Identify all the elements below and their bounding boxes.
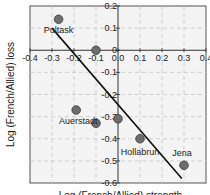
- scatter-chart: -0.4-0.3-0.2-0.10.00.10.20.30.4 0.20.10-…: [0, 0, 210, 195]
- y-tick-label: -0.6: [101, 178, 117, 188]
- point-label: Jena: [172, 148, 192, 158]
- y-tick-label: 0.2: [104, 1, 117, 11]
- y-tick-label: 0: [112, 45, 117, 55]
- data-point: [92, 46, 101, 55]
- data-point: [136, 134, 145, 143]
- y-axis-label: Log (French/Allied) loss: [5, 42, 16, 147]
- data-point: [72, 106, 81, 115]
- y-tick-label: -0.4: [101, 134, 117, 144]
- point-label: Pultask: [44, 25, 74, 35]
- x-tick-label: 0.3: [178, 53, 191, 63]
- x-tick-label: 0.2: [156, 53, 169, 63]
- data-point: [180, 161, 189, 170]
- data-point: [114, 115, 123, 124]
- point-label: Auerstadt: [59, 116, 98, 126]
- x-tick-label: 0.1: [134, 53, 147, 63]
- y-tick-label: -0.1: [101, 67, 117, 77]
- x-axis-label: Log (French/Allied) strength ...: [59, 190, 194, 195]
- x-tick-label: -0.3: [44, 53, 60, 63]
- point-label: Hollabrun: [121, 147, 160, 157]
- y-tick-label: -0.5: [101, 156, 117, 166]
- x-tick-label: 0.4: [200, 53, 210, 63]
- y-tick-label: 0.1: [104, 23, 117, 33]
- data-point: [54, 15, 63, 24]
- x-tick-label: -0.4: [22, 53, 38, 63]
